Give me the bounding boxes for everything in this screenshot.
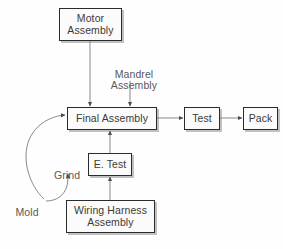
node-mold: Mold	[8, 195, 46, 218]
node-test-label: Test	[192, 113, 212, 125]
node-e-test[interactable]: E. Test	[88, 153, 132, 176]
node-grind-label: Grind	[54, 169, 80, 181]
node-final-assembly[interactable]: Final Assembly	[67, 107, 157, 130]
node-grind: Grind	[48, 158, 86, 181]
node-mold-label: Mold	[15, 206, 38, 218]
node-e-test-label: E. Test	[94, 159, 127, 171]
node-motor-assembly-label: Motor Assembly	[67, 13, 113, 36]
node-test[interactable]: Test	[184, 107, 220, 130]
edge-mold-to-final-assembly	[26, 115, 65, 199]
node-pack[interactable]: Pack	[243, 107, 278, 130]
node-final-assembly-label: Final Assembly	[76, 113, 148, 125]
node-wiring-harness-assembly[interactable]: Wiring Harness Assembly	[66, 200, 155, 233]
node-mandrel-assembly: Mandrel Assembly	[101, 57, 167, 92]
node-motor-assembly[interactable]: Motor Assembly	[59, 8, 122, 41]
node-wiring-harness-assembly-label: Wiring Harness Assembly	[74, 205, 147, 228]
node-pack-label: Pack	[249, 113, 273, 125]
flow-diagram-canvas: Motor Assembly Mandrel Assembly Final As…	[0, 0, 283, 249]
node-mandrel-assembly-label: Mandrel Assembly	[111, 68, 157, 92]
